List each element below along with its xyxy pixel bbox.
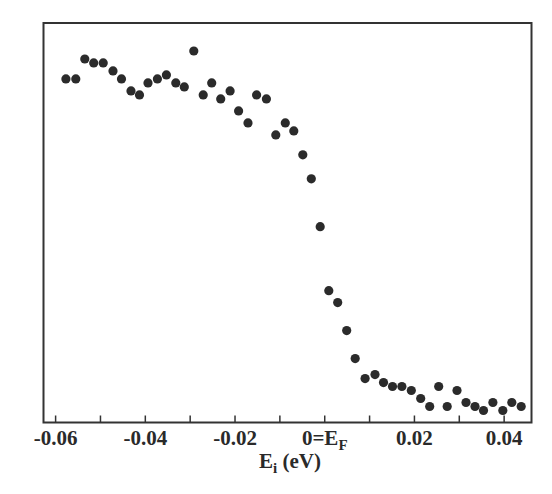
data-point: [135, 90, 144, 99]
data-point: [488, 398, 497, 407]
data-point: [307, 174, 316, 183]
data-point: [207, 78, 216, 87]
data-point: [416, 394, 425, 403]
data-point: [180, 82, 189, 91]
data-point: [108, 66, 117, 75]
x-axis-ticks: [56, 416, 505, 423]
x-tick-label: 0.04: [486, 426, 523, 450]
fermi-edge-scatter-chart: -0.06-0.04-0.020=EF0.020.04 Ei (eV): [0, 0, 552, 494]
data-point: [243, 118, 252, 127]
data-point: [199, 90, 208, 99]
data-point: [498, 406, 507, 415]
data-point: [189, 46, 198, 55]
data-point: [126, 86, 135, 95]
data-point: [252, 90, 261, 99]
data-point: [143, 78, 152, 87]
data-point: [281, 118, 290, 127]
data-point: [117, 74, 126, 83]
data-point: [289, 126, 298, 135]
data-point: [370, 370, 379, 379]
x-tick-label: -0.04: [123, 426, 167, 450]
x-axis-label: Ei (eV): [259, 449, 321, 476]
data-point: [298, 150, 307, 159]
data-point: [351, 354, 360, 363]
data-point: [397, 382, 406, 391]
data-point: [89, 58, 98, 67]
data-point: [80, 54, 89, 63]
data-point: [479, 406, 488, 415]
data-points: [61, 46, 526, 415]
data-point: [234, 106, 243, 115]
data-point: [443, 402, 452, 411]
data-point: [425, 402, 434, 411]
data-point: [171, 78, 180, 87]
x-axis-label-main: E: [259, 449, 273, 473]
data-point: [153, 74, 162, 83]
x-axis-label-unit: (eV): [277, 449, 321, 473]
data-point: [470, 402, 479, 411]
data-point: [407, 386, 416, 395]
x-tick-label: -0.02: [213, 426, 257, 450]
data-point: [162, 70, 171, 79]
data-point: [333, 298, 342, 307]
data-point: [324, 286, 333, 295]
data-point: [517, 402, 526, 411]
data-point: [452, 386, 461, 395]
data-point: [507, 398, 516, 407]
data-point: [316, 222, 325, 231]
data-point: [61, 74, 70, 83]
data-point: [461, 398, 470, 407]
data-point: [262, 94, 271, 103]
data-point: [388, 382, 397, 391]
data-point: [71, 74, 80, 83]
data-point: [271, 130, 280, 139]
data-point: [379, 378, 388, 387]
data-point: [434, 382, 443, 391]
data-point: [361, 374, 370, 383]
data-point: [99, 58, 108, 67]
plot-frame: [44, 23, 532, 423]
x-tick-label: 0.02: [396, 426, 433, 450]
data-point: [216, 94, 225, 103]
data-point: [342, 326, 351, 335]
data-point: [226, 86, 235, 95]
x-tick-label: -0.06: [34, 426, 78, 450]
